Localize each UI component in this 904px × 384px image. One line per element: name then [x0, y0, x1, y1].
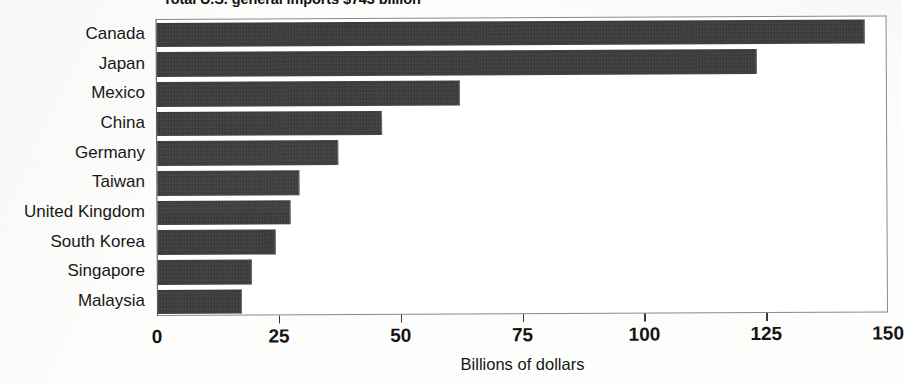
category-label-united-kingdom: United Kingdom — [24, 203, 145, 220]
category-label-mexico: Mexico — [91, 84, 145, 101]
bar-south-korea — [158, 230, 276, 255]
bar-malaysia — [158, 289, 242, 314]
x-tick-label-0: 0 — [152, 326, 163, 348]
chart-title: Total U.S. general imports $743 billion — [163, 0, 583, 7]
category-label-singapore: Singapore — [67, 262, 145, 279]
x-tick-mark — [279, 315, 281, 323]
bar-series — [157, 16, 887, 315]
category-label-malaysia: Malaysia — [78, 292, 145, 309]
bar-taiwan — [157, 170, 299, 195]
x-tick-label-150: 150 — [872, 322, 904, 344]
x-tick-label-50: 50 — [390, 325, 411, 347]
bar-china — [157, 110, 382, 136]
bar-united-kingdom — [157, 200, 290, 225]
category-label-china: China — [101, 114, 145, 131]
x-tick-mark — [644, 314, 646, 322]
x-tick-mark — [401, 315, 403, 323]
category-label-taiwan: Taiwan — [92, 173, 145, 190]
bar-row — [158, 224, 887, 257]
bar-row — [157, 195, 886, 228]
bar-row — [158, 254, 887, 287]
bar-row — [157, 106, 886, 139]
x-axis-title: Billions of dollars — [157, 355, 888, 374]
bar-row — [157, 76, 886, 109]
bar-mexico — [157, 80, 460, 106]
bar-row — [157, 46, 886, 79]
x-tick-label-125: 125 — [750, 323, 782, 345]
x-tick-label-75: 75 — [512, 324, 533, 346]
plot-area — [156, 15, 888, 316]
category-label-japan: Japan — [99, 55, 145, 72]
bar-row — [157, 165, 886, 198]
bar-row — [157, 16, 886, 49]
bar-singapore — [158, 260, 252, 285]
x-tick-mark — [522, 314, 524, 322]
x-tick-label-25: 25 — [268, 325, 289, 347]
bar-japan — [157, 49, 758, 77]
x-tick-mark — [766, 313, 768, 321]
bar-canada — [157, 19, 865, 47]
category-label-germany: Germany — [75, 144, 145, 161]
category-axis-labels: CanadaJapanMexicoChinaGermanyTaiwanUnite… — [0, 19, 152, 316]
category-label-canada: Canada — [85, 25, 145, 42]
x-tick-label-100: 100 — [629, 324, 661, 346]
value-axis: 0255075100125150 — [157, 312, 888, 356]
category-label-south-korea: South Korea — [50, 233, 145, 250]
bar-germany — [157, 140, 338, 166]
bar-row — [157, 135, 886, 168]
